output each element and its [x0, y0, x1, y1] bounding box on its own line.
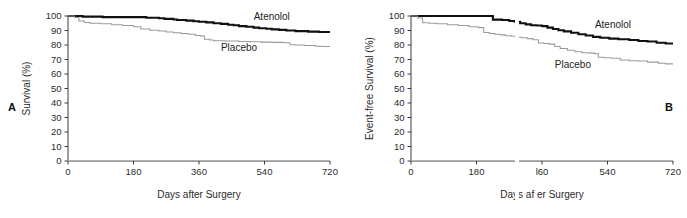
x-tick-label: 720 — [322, 166, 338, 177]
y-tick-label: 0 — [399, 155, 404, 166]
x-tick-label: 180 — [126, 166, 142, 177]
y-tick-label: 70 — [394, 54, 405, 65]
panel-a: 01020304050607080901000180360540720Ateno… — [0, 0, 344, 218]
scan-artifact-streak — [515, 0, 519, 218]
y-tick-label: 50 — [51, 83, 62, 94]
y-tick-label: 50 — [394, 83, 405, 94]
x-tick-label: 0 — [408, 166, 413, 177]
y-tick-label: 100 — [389, 10, 405, 21]
y-tick-label: 10 — [394, 141, 405, 152]
y-tick-label: 70 — [51, 54, 62, 65]
x-axis-title: Days after Surgery — [157, 189, 240, 200]
panel-b: 01020304050607080901000180l60540720Ateno… — [343, 0, 687, 218]
y-tick-label: 60 — [394, 68, 405, 79]
x-tick-label: 360 — [191, 166, 207, 177]
panel-a-letter: A — [8, 101, 16, 113]
y-tick-label: 40 — [51, 97, 62, 108]
x-tick-label: 540 — [600, 166, 616, 177]
y-tick-label: 90 — [394, 25, 405, 36]
y-tick-label: 100 — [46, 10, 62, 21]
y-tick-label: 40 — [394, 97, 405, 108]
panel-b-letter: B — [665, 101, 673, 113]
y-tick-label: 20 — [394, 126, 405, 137]
y-tick-label: 10 — [51, 141, 62, 152]
x-tick-label: l60 — [536, 166, 549, 177]
panel-a-plot: 01020304050607080901000180360540720Ateno… — [0, 0, 344, 218]
series-label-placebo: Placebo — [555, 59, 592, 70]
series-label-atenolol: Atenolol — [254, 11, 290, 22]
y-tick-label: 80 — [394, 39, 405, 50]
y-tick-label: 60 — [51, 68, 62, 79]
series-label-atenolol: Atenolol — [595, 19, 631, 30]
survival-curves-figure: 01020304050607080901000180360540720Ateno… — [0, 0, 687, 218]
series-label-placebo: Placebo — [221, 42, 258, 53]
x-tick-label: 0 — [65, 166, 70, 177]
y-tick-label: 30 — [394, 112, 405, 123]
x-axis-title: Days af er Surgery — [500, 189, 583, 200]
y-tick-label: 0 — [56, 155, 61, 166]
y-tick-label: 20 — [51, 126, 62, 137]
x-tick-label: 720 — [665, 166, 681, 177]
y-tick-label: 90 — [51, 25, 62, 36]
y-tick-label: 80 — [51, 39, 62, 50]
series-curve-atenolol — [411, 16, 673, 44]
y-axis-title: Survival (%) — [21, 62, 32, 116]
x-tick-label: 180 — [469, 166, 485, 177]
y-axis-title: Event-free Survival (%) — [364, 37, 375, 140]
x-tick-label: 540 — [257, 166, 273, 177]
y-tick-label: 30 — [51, 112, 62, 123]
